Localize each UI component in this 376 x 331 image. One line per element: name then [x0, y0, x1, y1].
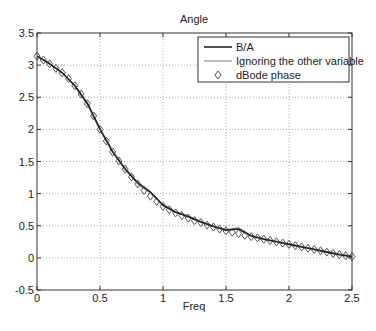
y-tick-label: 3 — [28, 59, 34, 71]
y-tick-label: 2 — [28, 123, 34, 135]
x-axis-label: Freq — [183, 300, 206, 312]
y-tick-label: 3.5 — [19, 27, 34, 39]
y-tick-label: 2.5 — [19, 91, 34, 103]
legend-label-dbode: dBode phase — [236, 69, 301, 81]
legend: B/A Ignoring the other variable dBode ph… — [198, 37, 364, 82]
series-b-a-line — [37, 56, 352, 257]
data-series — [34, 52, 355, 260]
y-tick-label: 0.5 — [19, 220, 34, 232]
y-tick-label: 1 — [28, 188, 34, 200]
angle-chart: 00.511.522.5 -0.500.511.522.533.5 Angle … — [0, 0, 376, 331]
x-tick-label: 0.5 — [92, 292, 107, 304]
x-tick-label: 1.5 — [218, 292, 233, 304]
y-tick-label: -0.5 — [15, 284, 34, 296]
x-tick-label: 2.5 — [344, 292, 359, 304]
x-tick-label: 2 — [286, 292, 292, 304]
y-tick-label: 0 — [28, 252, 34, 264]
legend-label-b-a: B/A — [236, 41, 254, 53]
x-tick-label: 1 — [160, 292, 166, 304]
y-tick-label: 1.5 — [19, 156, 34, 168]
x-tick-label: 0 — [34, 292, 40, 304]
y-axis-tick-labels: -0.500.511.522.533.5 — [15, 27, 34, 296]
chart-title: Angle — [180, 13, 208, 25]
legend-label-ignoring: Ignoring the other variable — [236, 55, 364, 67]
